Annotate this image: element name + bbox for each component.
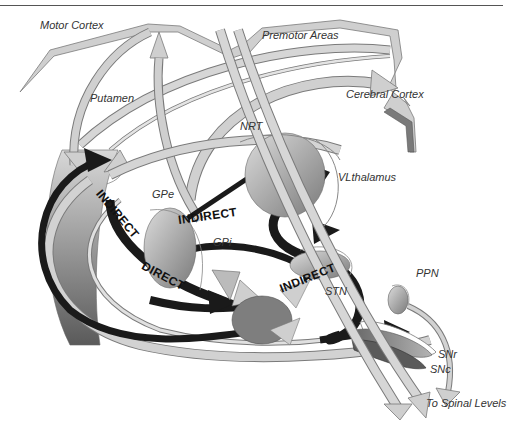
- label-gpi: GPi: [213, 237, 231, 248]
- label-ppn: PPN: [416, 268, 439, 279]
- label-snc: SNc: [430, 364, 451, 375]
- label-nrt: NRT: [240, 121, 262, 132]
- label-putamen: Putamen: [90, 93, 134, 104]
- label-cerebral-cortex: Cerebral Cortex: [346, 89, 424, 100]
- ppn-nucleus: [388, 285, 409, 314]
- label-gpe: GPe: [152, 189, 174, 200]
- label-motor-cortex: Motor Cortex: [40, 20, 104, 31]
- label-premotor-areas: Premotor Areas: [262, 30, 339, 41]
- label-stn: STN: [325, 286, 347, 297]
- spinal-arrowhead-1: [384, 404, 412, 420]
- label-to-spinal-levels: To Spinal Levels: [426, 398, 506, 409]
- label-vl-thalamus: VLthalamus: [338, 172, 396, 183]
- label-snr: SNr: [438, 349, 457, 360]
